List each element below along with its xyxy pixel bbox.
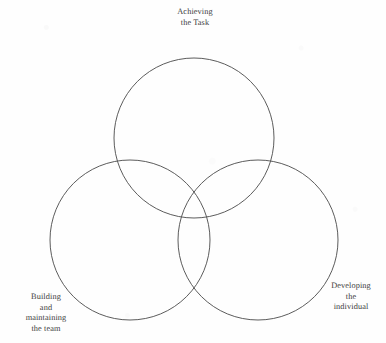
label-building-and-maintaining-the-team: Building and maintaining the team bbox=[5, 292, 87, 334]
circle-developing-the-individual bbox=[178, 160, 338, 320]
venn-diagram: Achieving the Task Building and maintain… bbox=[0, 0, 386, 343]
label-achieving-the-task: Achieving the Task bbox=[145, 7, 245, 28]
circle-achieving-the-task bbox=[114, 58, 274, 218]
label-developing-the-individual: Developing the individual bbox=[318, 281, 384, 313]
